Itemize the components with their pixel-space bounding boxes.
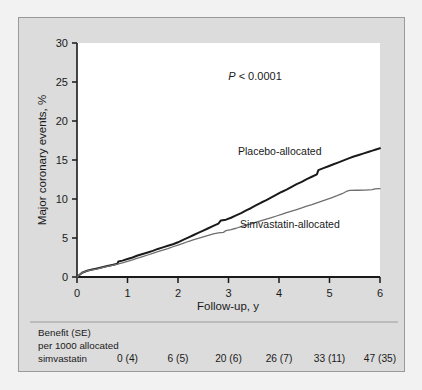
x-axis-title: Follow-up, y	[197, 300, 259, 312]
benefit-note-line2: per 1000 allocated	[38, 340, 119, 351]
y-tick-label: 25	[56, 76, 68, 88]
y-tick-label: 15	[56, 154, 68, 166]
x-tick-label: 6	[377, 287, 383, 299]
y-tick-label: 5	[62, 232, 68, 244]
benefit-value: 0 (4)	[117, 353, 138, 364]
x-tick-label: 0	[74, 287, 80, 299]
benefit-note-line3: simvastatin	[38, 353, 87, 364]
benefit-note-line1: Benefit (SE)	[38, 327, 91, 338]
placebo-curve-label: Placebo-allocated	[238, 145, 322, 157]
simvastatin-curve-label: Simvastatin-allocated	[240, 218, 340, 230]
y-tick-label: 0	[62, 271, 68, 283]
benefit-value: 20 (6)	[215, 353, 242, 364]
x-tick-label: 1	[124, 287, 130, 299]
p-value-annotation: P < 0.0001	[228, 70, 282, 82]
y-tick-label: 20	[56, 115, 68, 127]
y-tick-label: 10	[56, 193, 68, 205]
x-tick-labels: 0123456	[74, 287, 383, 299]
benefit-value: 47 (35)	[364, 353, 396, 364]
x-tick-label: 2	[175, 287, 181, 299]
benefit-value: 26 (7)	[266, 353, 293, 364]
chart-canvas: 051015202530 0123456 Major coronary even…	[0, 0, 422, 390]
benefit-value: 33 (11)	[314, 353, 346, 364]
benefit-value: 6 (5)	[168, 353, 189, 364]
figure-root: 051015202530 0123456 Major coronary even…	[0, 0, 422, 390]
p-value-text: < 0.0001	[236, 70, 282, 82]
x-tick-label: 3	[225, 287, 231, 299]
y-tick-label: 30	[56, 37, 68, 49]
y-tick-labels: 051015202530	[56, 37, 68, 283]
benefit-values-row: 0 (4)6 (5)20 (6)26 (7)33 (11)47 (35)	[117, 353, 396, 364]
x-tick-label: 5	[326, 287, 332, 299]
x-tick-label: 4	[276, 287, 282, 299]
y-axis-title: Major coronary events, %	[36, 95, 48, 225]
